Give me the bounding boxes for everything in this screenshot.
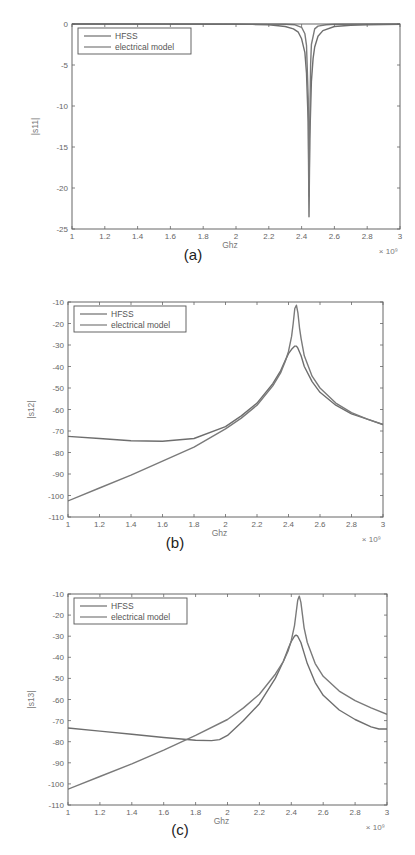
y-tick-label: -10 <box>52 590 64 599</box>
x-tick-label: 2.6 <box>314 520 326 529</box>
x-tick-label: 3 <box>381 520 386 529</box>
x-tick-label: 1.6 <box>165 232 177 241</box>
y-axis-label: |s12| <box>26 400 36 418</box>
legend: HFSSelectrical model <box>78 28 191 54</box>
x-tick-label: 2.8 <box>346 520 358 529</box>
x-multiplier: × 10⁹ <box>366 823 385 832</box>
y-tick-label: -20 <box>56 184 68 193</box>
x-tick-label: 2.8 <box>362 232 374 241</box>
x-multiplier: × 10⁹ <box>362 535 381 544</box>
x-tick-label: 1.2 <box>94 520 106 529</box>
legend-label: electrical model <box>111 612 170 622</box>
legend: HFSSelectrical model <box>74 306 186 332</box>
y-tick-label: 0 <box>64 20 69 29</box>
legend-label: HFSS <box>115 31 138 41</box>
series-line-electrical-model <box>68 596 387 789</box>
y-tick-label: -100 <box>48 492 65 501</box>
x-tick-label: 3 <box>385 808 390 817</box>
y-axis-label: |s13| <box>26 690 36 708</box>
series-line-electrical-model <box>68 305 383 501</box>
chart-s12: 11.21.41.61.822.22.42.62.83-10-20-30-40-… <box>26 298 386 551</box>
x-tick-label: 2.2 <box>254 808 266 817</box>
x-tick-label: 2.6 <box>318 808 330 817</box>
legend-label: electrical model <box>111 320 170 330</box>
x-axis-label: Ghz <box>212 528 228 538</box>
y-tick-label: -60 <box>52 406 64 415</box>
figure-caption: (c) <box>171 821 189 838</box>
y-tick-label: -90 <box>52 759 64 768</box>
y-tick-label: -110 <box>49 801 65 810</box>
legend: HFSSelectrical model <box>74 598 187 624</box>
x-tick-label: 1.8 <box>190 808 202 817</box>
y-tick-label: -80 <box>52 449 64 458</box>
x-axis-label: Ghz <box>214 816 230 826</box>
x-tick-label: 1 <box>70 232 75 241</box>
figure-canvas: 11.21.41.61.822.22.42.62.830-5-10-15-20-… <box>0 0 415 855</box>
x-tick-label: 3 <box>398 232 403 241</box>
x-tick-label: 1 <box>66 520 71 529</box>
y-tick-label: -40 <box>52 363 64 372</box>
legend-label: HFSS <box>111 601 134 611</box>
y-tick-label: -50 <box>52 384 64 393</box>
x-tick-label: 1.4 <box>125 520 137 529</box>
chart-s13: 11.21.41.61.822.22.42.62.83-10-20-30-40-… <box>26 590 390 838</box>
x-multiplier: × 10⁹ <box>379 247 398 256</box>
x-tick-label: 1.6 <box>158 808 170 817</box>
x-tick-label: 1.4 <box>126 808 138 817</box>
figure-caption: (b) <box>166 534 184 551</box>
y-tick-label: -70 <box>52 427 64 436</box>
x-tick-label: 1.2 <box>94 808 106 817</box>
y-tick-label: -50 <box>52 674 64 683</box>
y-tick-label: -60 <box>52 696 64 705</box>
y-tick-label: -100 <box>48 780 65 789</box>
y-tick-label: -40 <box>52 653 64 662</box>
plot-frame <box>68 594 387 805</box>
plot-frame <box>72 24 400 229</box>
chart-s11: 11.21.41.61.822.22.42.62.830-5-10-15-20-… <box>30 20 403 263</box>
x-tick-label: 1.6 <box>157 520 169 529</box>
y-tick-label: -20 <box>52 611 64 620</box>
y-tick-label: -90 <box>52 470 64 479</box>
x-tick-label: 2.4 <box>283 520 295 529</box>
y-tick-label: -110 <box>49 513 65 522</box>
y-tick-label: -80 <box>52 738 64 747</box>
x-tick-label: 2.4 <box>286 808 298 817</box>
x-tick-label: 1.8 <box>188 520 200 529</box>
x-tick-label: 2.4 <box>296 232 308 241</box>
figure-caption: (a) <box>184 246 202 263</box>
x-tick-label: 1.4 <box>132 232 144 241</box>
plot-frame <box>68 302 383 517</box>
y-tick-label: -10 <box>52 298 64 307</box>
y-tick-label: -30 <box>52 341 64 350</box>
y-tick-label: -20 <box>52 320 64 329</box>
y-tick-label: -15 <box>56 143 68 152</box>
y-tick-label: -70 <box>52 717 64 726</box>
x-tick-label: 1.8 <box>198 232 210 241</box>
x-tick-label: 2.2 <box>263 232 275 241</box>
y-tick-label: -5 <box>61 61 69 70</box>
x-axis-label: Ghz <box>222 240 238 250</box>
y-axis-label: |s11| <box>30 118 40 136</box>
x-tick-label: 2.8 <box>350 808 362 817</box>
legend-label: HFSS <box>111 309 134 319</box>
series-line-hfss <box>68 346 383 441</box>
x-tick-label: 2.2 <box>251 520 263 529</box>
series-line-hfss <box>68 635 387 741</box>
legend-label: electrical model <box>115 42 174 52</box>
x-tick-label: 1.2 <box>99 232 111 241</box>
x-tick-label: 2.6 <box>329 232 341 241</box>
y-tick-label: -30 <box>52 632 64 641</box>
x-tick-label: 1 <box>66 808 71 817</box>
y-tick-label: -25 <box>56 225 68 234</box>
y-tick-label: -10 <box>56 102 68 111</box>
